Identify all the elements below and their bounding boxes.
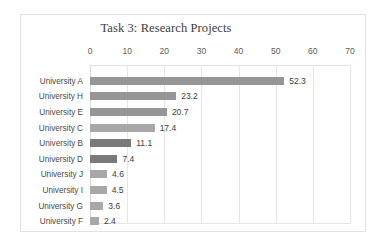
bar — [90, 170, 107, 178]
bar-row: University I4.5 — [90, 182, 350, 198]
x-tick-label: 0 — [88, 46, 93, 56]
bar-row: University G3.6 — [90, 198, 350, 214]
bar — [90, 124, 155, 132]
bar-row: University J4.6 — [90, 167, 350, 183]
category-label: University C — [39, 123, 83, 132]
bar — [90, 139, 131, 147]
bar-value-label: 4.5 — [112, 185, 124, 195]
bar — [90, 77, 284, 85]
bar-value-label: 17.4 — [160, 123, 177, 133]
bar — [90, 155, 117, 163]
bar — [90, 92, 176, 100]
x-tick-label: 20 — [160, 46, 169, 56]
bar-row: University B11.1 — [90, 135, 350, 151]
category-label: University H — [39, 92, 83, 101]
bar-value-label: 11.1 — [136, 138, 152, 148]
bar-value-label: 3.6 — [108, 201, 120, 211]
bar — [90, 186, 107, 194]
category-label: University G — [38, 201, 83, 210]
chart-frame: Task 3: Research Projects 01020304050607… — [20, 14, 366, 232]
x-tick-label: 30 — [197, 46, 206, 56]
bar-row: University D7.4 — [90, 151, 350, 167]
category-label: University E — [39, 107, 83, 116]
x-tick-label: 60 — [308, 46, 317, 56]
category-label: University I — [43, 185, 84, 194]
bar-row: University C17.4 — [90, 120, 350, 136]
gridline-70 — [350, 65, 351, 223]
x-tick-label: 50 — [271, 46, 280, 56]
bar-row: University A52.3 — [90, 73, 350, 89]
category-label: University A — [40, 76, 83, 85]
bar-value-label: 7.4 — [122, 154, 134, 164]
category-label: University B — [39, 139, 83, 148]
category-label: University D — [39, 154, 83, 163]
bar-row: University H23.2 — [90, 89, 350, 105]
x-tick-label: 40 — [234, 46, 243, 56]
category-label: University F — [40, 217, 83, 226]
bar-value-label: 20.7 — [172, 107, 189, 117]
category-label: University J — [41, 170, 83, 179]
chart-title: Task 3: Research Projects — [21, 21, 311, 36]
bar — [90, 202, 103, 210]
bar-value-label: 2.4 — [104, 216, 116, 226]
bar-value-label: 4.6 — [112, 169, 124, 179]
x-tick-label: 70 — [345, 46, 354, 56]
bar-row: University F2.4 — [90, 213, 350, 229]
bar-row: University E20.7 — [90, 104, 350, 120]
bar — [90, 217, 99, 225]
plot-area: 010203040506070 University A52.3Universi… — [90, 65, 350, 223]
bar-value-label: 52.3 — [289, 76, 306, 86]
bar — [90, 108, 167, 116]
bar-value-label: 23.2 — [181, 91, 198, 101]
x-tick-label: 10 — [122, 46, 131, 56]
